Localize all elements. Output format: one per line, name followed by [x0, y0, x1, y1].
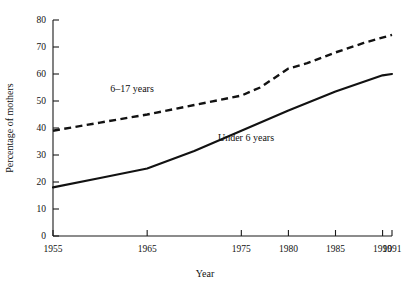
- x-axis-tick-label: 1955: [44, 244, 63, 254]
- y-axis-tick-label: 50: [37, 96, 47, 106]
- y-axis-ticks: [53, 20, 59, 236]
- x-axis-tick-label: 1991: [383, 244, 402, 254]
- x-axis-tick-label: 1965: [138, 244, 157, 254]
- y-axis-tick-label: 70: [37, 42, 47, 52]
- y-axis-group: 01020304050607080 Percentage of mothers: [4, 15, 59, 241]
- y-axis-tick-label: 80: [37, 15, 47, 25]
- y-axis-tick-label: 60: [37, 69, 47, 79]
- x-axis-tick-label: 1985: [326, 244, 345, 254]
- y-axis-title: Percentage of mothers: [4, 83, 15, 173]
- x-axis-group: 1955196519751980198519901991 Year: [44, 230, 402, 279]
- series-group: [53, 35, 392, 188]
- y-axis-tick-label: 0: [41, 231, 46, 241]
- y-axis-tick-label: 10: [37, 204, 47, 214]
- series-label: 6–17 years: [110, 83, 154, 94]
- series-label: Under 6 years: [218, 132, 274, 143]
- x-axis-title: Year: [196, 268, 215, 279]
- y-axis-tick-label: 30: [37, 150, 47, 160]
- y-axis-tick-labels: 01020304050607080: [37, 15, 47, 241]
- x-axis-tick-label: 1980: [279, 244, 298, 254]
- chart-figure: 01020304050607080 Percentage of mothers …: [0, 0, 404, 290]
- y-axis-tick-label: 20: [37, 177, 47, 187]
- series-line-under-6-years: [53, 74, 392, 187]
- line-chart-svg: 01020304050607080 Percentage of mothers …: [0, 0, 404, 290]
- x-axis-ticks: [53, 230, 392, 236]
- x-axis-tick-label: 1975: [232, 244, 251, 254]
- x-axis-tick-labels: 1955196519751980198519901991: [44, 244, 402, 254]
- y-axis-tick-label: 40: [37, 123, 47, 133]
- series-line-6-17-years: [53, 35, 392, 131]
